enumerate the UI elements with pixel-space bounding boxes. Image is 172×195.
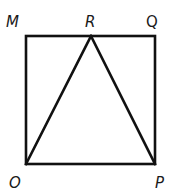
segment-RP (91, 36, 155, 164)
label-P: P (155, 174, 165, 192)
segment-OR (26, 36, 91, 164)
square-MQPO (26, 36, 155, 164)
label-R: R (85, 13, 95, 31)
geometry-diagram: M R Q O P (0, 0, 172, 195)
label-M: M (6, 13, 19, 31)
label-O: O (9, 174, 21, 192)
label-Q: Q (146, 13, 158, 31)
